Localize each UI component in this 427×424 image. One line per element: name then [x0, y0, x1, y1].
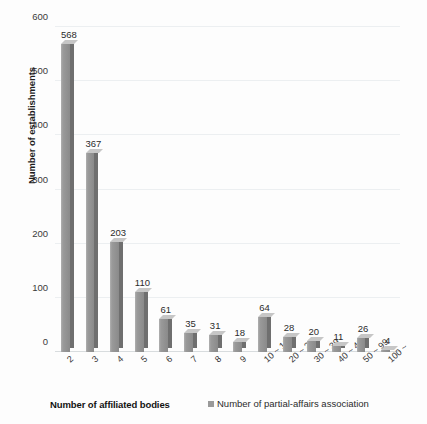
bar-slot: 6410 ~ 19: [252, 27, 277, 352]
bar-side-face: [94, 149, 98, 348]
x-axis-tick-label: 5: [139, 354, 149, 365]
bar-front-face: [159, 319, 168, 352]
bar-side-face: [70, 40, 74, 348]
bar-slot: 1140 ~ 49: [326, 27, 351, 352]
bar-side-face: [119, 238, 123, 348]
bar-value-label: 568: [61, 29, 74, 40]
bar-side-face: [267, 313, 271, 348]
bar-top-face: [332, 342, 349, 346]
x-axis-tick-label: 3: [90, 354, 100, 365]
bar-chart-screenshot: 0100200300400500600568236732034110561635…: [0, 0, 427, 424]
bar-slot: 2030 ~ 39: [301, 27, 326, 352]
bar-value-label: 4: [381, 335, 394, 346]
x-axis-tick-label: 7: [189, 354, 199, 365]
chart-legend: Number of partial-affairs association: [208, 398, 369, 409]
bar[interactable]: 367: [86, 153, 99, 352]
plot-area: 0100200300400500600568236732034110561635…: [55, 27, 400, 352]
bar-slot: 4100 ~: [375, 27, 400, 352]
bar-top-face: [135, 288, 152, 292]
bar[interactable]: 568: [61, 44, 74, 352]
bar[interactable]: 110: [135, 292, 148, 352]
bar-value-label: 31: [209, 320, 222, 331]
x-axis-tick-label: 6: [164, 354, 174, 365]
x-axis-tick-label: 9: [238, 354, 248, 365]
bar-value-label: 28: [283, 322, 296, 333]
bar-front-face: [233, 342, 242, 352]
bar-value-label: 20: [307, 326, 320, 337]
x-axis-tick-label: 8: [213, 354, 223, 365]
bar[interactable]: 18: [233, 342, 246, 352]
bar-slot: 2650 ~ 99: [351, 27, 376, 352]
bar-top-face: [357, 334, 374, 338]
bar[interactable]: 61: [159, 319, 172, 352]
bar-slot: 616: [154, 27, 179, 352]
bar-slot: 189: [228, 27, 253, 352]
bar-top-face: [233, 338, 250, 342]
bar-top-face: [61, 40, 78, 44]
x-axis-title: Number of affiliated bodies: [50, 399, 170, 410]
bar-front-face: [381, 350, 390, 352]
bar-front-face: [307, 341, 316, 352]
y-axis-title: Number of establishments: [26, 51, 37, 201]
bar-front-face: [86, 153, 95, 352]
bar-top-face: [209, 331, 226, 335]
bar-side-face: [144, 288, 148, 348]
bar[interactable]: 35: [184, 333, 197, 352]
bar-value-label: 61: [159, 304, 172, 315]
bar-slot: 318: [203, 27, 228, 352]
bar-slot: 5682: [55, 27, 80, 352]
bar[interactable]: 31: [209, 335, 222, 352]
x-axis-tick-label: 4: [115, 354, 125, 365]
y-axis-tick-label: 600: [32, 11, 48, 22]
y-axis-tick-label: 0: [43, 336, 48, 347]
bar-value-label: 110: [135, 277, 148, 288]
bar-slot: 3673: [80, 27, 105, 352]
bar-value-label: 11: [332, 331, 345, 342]
bar-front-face: [184, 333, 193, 352]
bar-front-face: [332, 346, 341, 352]
bar-slot: 1105: [129, 27, 154, 352]
bar-value-label: 18: [233, 327, 246, 338]
bar-front-face: [61, 44, 70, 352]
bar-top-face: [258, 313, 275, 317]
bar[interactable]: 64: [258, 317, 271, 352]
y-axis-tick-label: 100: [32, 281, 48, 292]
bar-side-face: [168, 315, 172, 348]
legend-label: Number of partial-affairs association: [217, 398, 369, 409]
bar-value-label: 203: [110, 227, 123, 238]
bar-value-label: 367: [86, 138, 99, 149]
bar-slot: 2820 ~ 29: [277, 27, 302, 352]
bar-slot: 2034: [104, 27, 129, 352]
y-axis-tick-label: 200: [32, 227, 48, 238]
bar-top-face: [283, 333, 300, 337]
bar-top-face: [86, 149, 103, 153]
bar-value-label: 26: [357, 323, 370, 334]
bar-value-label: 35: [184, 318, 197, 329]
bar-slot: 357: [178, 27, 203, 352]
bar-top-face: [159, 315, 176, 319]
x-axis-tick-label: 2: [65, 354, 75, 365]
bar-front-face: [110, 242, 119, 352]
legend-swatch-icon: [208, 401, 214, 407]
bar-top-face: [110, 238, 127, 242]
bar-value-label: 64: [258, 302, 271, 313]
bar[interactable]: 203: [110, 242, 123, 352]
bar-front-face: [357, 338, 366, 352]
bar-top-face: [184, 329, 201, 333]
bar-top-face: [307, 337, 324, 341]
bar-front-face: [209, 335, 218, 352]
bar-front-face: [135, 292, 144, 352]
bar-front-face: [258, 317, 267, 352]
bar-front-face: [283, 337, 292, 352]
